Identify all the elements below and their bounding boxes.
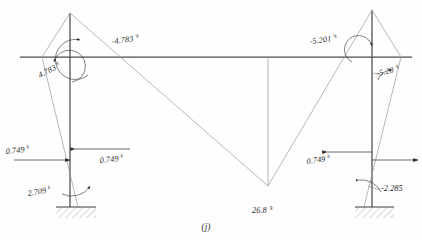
- right-column-deflection-line: [372, 10, 401, 57]
- beam-left-moment-arc: [55, 39, 88, 79]
- structural-frame-figure: -4.783 'k 4.783 k -5.201 'k -5.20 'k 0.7…: [0, 0, 422, 240]
- moment-arrows: [54, 36, 392, 197]
- right-support: [355, 207, 394, 218]
- left-base-moment-arc: [62, 186, 90, 196]
- right-column-top-moment-label: -5.20 'k: [375, 63, 401, 78]
- right-support-hatching: [355, 207, 394, 218]
- beam-right-moment-label: -5.201 'k: [309, 32, 338, 46]
- left-column-top-moment-label: 4.783 k: [36, 59, 62, 79]
- center-load-label: 26.8 'k: [252, 205, 273, 215]
- left-support: [56, 207, 96, 218]
- shear-arrows: [14, 149, 418, 160]
- figure-caption: (j): [202, 222, 211, 233]
- right-shear-label: 0.749 k: [306, 153, 331, 166]
- left-base-moment-label: 2.709 k: [27, 184, 52, 198]
- beam-right-moment-arc: [344, 36, 372, 62]
- deflected-shape-lines: [42, 10, 401, 207]
- left-inner-shear-label: 0.749 k: [99, 152, 124, 165]
- right-base-moment-arc: [359, 180, 381, 192]
- diagram-labels: -4.783 'k 4.783 k -5.201 'k -5.20 'k 0.7…: [5, 32, 403, 233]
- beam-left-moment-label: -4.783 'k: [111, 32, 140, 46]
- leader-lines: [368, 73, 380, 190]
- left-outer-shear-label: 0.749 k: [5, 143, 30, 156]
- right-base-moment-label: -2.285: [381, 184, 403, 193]
- left-support-hatching: [56, 207, 96, 218]
